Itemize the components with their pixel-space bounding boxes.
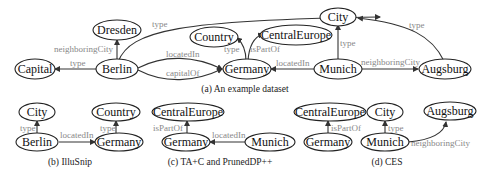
svg-text:type: type (20, 123, 36, 133)
svg-text:Country: Country (194, 30, 233, 44)
svg-text:type: type (388, 123, 404, 133)
edge-munich-city: type (338, 25, 356, 62)
svg-text:type: type (340, 38, 356, 48)
node-germany: Germany (223, 59, 271, 79)
svg-text:Augsburg: Augsburg (421, 62, 468, 76)
edge-munich-augsburg: neighboringCity (361, 57, 420, 69)
svg-text:locatedIn: locatedIn (166, 49, 200, 59)
node-d-germany: Germany (304, 133, 352, 151)
node-city: City (320, 8, 356, 26)
edge-b-berlin-city: type (20, 121, 37, 133)
svg-text:isPartOf: isPartOf (331, 123, 361, 133)
svg-text:neighboringCity: neighboringCity (361, 57, 420, 67)
svg-text:isPartOf: isPartOf (153, 123, 183, 133)
node-capital: Capital (15, 59, 55, 79)
svg-text:capitalOf: capitalOf (166, 68, 199, 78)
caption-a: (a) An example dataset (201, 84, 289, 95)
svg-text:Germany: Germany (225, 62, 270, 76)
svg-text:locatedIn: locatedIn (212, 130, 246, 140)
edge-d-germany-centraleurope: isPartOf (328, 121, 361, 133)
edge-augsburg-city: type (358, 18, 444, 61)
panel-b: type type locatedIn City Country Berlin … (16, 103, 143, 168)
node-b-berlin: Berlin (16, 133, 58, 151)
node-augsburg: Augsburg (419, 59, 471, 79)
svg-text:Augsburg: Augsburg (426, 104, 473, 118)
svg-text:Country: Country (96, 105, 135, 119)
edge-d-munich-city: type (385, 121, 404, 133)
node-country: Country (190, 27, 238, 47)
svg-text:Berlin: Berlin (22, 135, 52, 149)
edge-b-berlin-germany: locatedIn (59, 130, 95, 142)
svg-text:Munich: Munich (251, 135, 288, 149)
edge-d-munich-augsburg: neighboringCity (408, 122, 470, 148)
edge-berlin-germany-locatedin: locatedIn (138, 49, 222, 69)
node-c-munich: Munich (245, 133, 295, 151)
svg-text:Capital: Capital (18, 62, 53, 76)
edge-c-munich-germany: locatedIn (210, 130, 246, 142)
panel-a: type neighboringCity type locatedIn capi… (15, 8, 471, 95)
edge-berlin-dresden: neighboringCity (54, 40, 117, 62)
caption-c: (c) TA+C and PrunedDP++ (168, 157, 273, 168)
edge-berlin-capital: type (55, 58, 96, 69)
caption-d: (d) CES (372, 157, 403, 168)
node-b-germany: Germany (95, 133, 143, 151)
svg-text:CentralEurope: CentralEurope (153, 105, 223, 119)
node-centraleurope: CentralEurope (260, 25, 332, 45)
svg-text:type: type (70, 58, 86, 68)
panel-c: isPartOf locatedIn CentralEurope Germany… (152, 103, 295, 168)
svg-text:type: type (152, 19, 168, 29)
panel-d: isPartOf type neighboringCity CentralEur… (294, 102, 476, 168)
node-d-augsburg: Augsburg (424, 102, 476, 120)
caption-b: (b) IlluSnip (48, 157, 92, 168)
svg-text:City: City (328, 10, 349, 24)
node-c-centraleurope: CentralEurope (152, 103, 224, 121)
node-d-city: City (367, 103, 403, 121)
edge-c-germany-centraleurope: isPartOf (153, 121, 187, 133)
svg-text:CentralEurope: CentralEurope (261, 28, 331, 42)
svg-text:CentralEurope: CentralEurope (295, 105, 365, 119)
node-d-munich: Munich (361, 133, 409, 151)
node-b-country: Country (92, 103, 140, 121)
node-c-germany: Germany (162, 133, 210, 151)
svg-text:type: type (409, 20, 425, 30)
node-berlin: Berlin (96, 59, 138, 79)
svg-text:Germany: Germany (306, 135, 351, 149)
edge-berlin-germany-capitalof: capitalOf (138, 68, 222, 80)
edge-munich-germany: locatedIn (271, 58, 314, 69)
svg-text:Berlin: Berlin (102, 62, 132, 76)
svg-text:Germany: Germany (164, 135, 209, 149)
svg-text:isPartOf: isPartOf (250, 44, 280, 54)
edge-b-germany-country: type (100, 121, 116, 133)
svg-text:neighboringCity: neighboringCity (54, 44, 113, 54)
node-munich: Munich (314, 59, 362, 79)
svg-text:locatedIn: locatedIn (60, 130, 94, 140)
svg-text:type: type (100, 123, 116, 133)
svg-text:City: City (375, 105, 396, 119)
svg-text:Dresden: Dresden (97, 23, 137, 37)
node-dresden: Dresden (93, 20, 141, 40)
svg-text:locatedIn: locatedIn (276, 58, 310, 68)
node-b-city: City (19, 103, 55, 121)
node-d-centraleurope: CentralEurope (294, 103, 366, 121)
diagram-canvas: type neighboringCity type locatedIn capi… (0, 0, 489, 171)
svg-text:Germany: Germany (97, 135, 142, 149)
svg-text:Munich: Munich (319, 62, 356, 76)
svg-text:Munich: Munich (366, 135, 403, 149)
svg-text:neighboringCity: neighboringCity (411, 138, 470, 148)
svg-text:City: City (27, 105, 48, 119)
